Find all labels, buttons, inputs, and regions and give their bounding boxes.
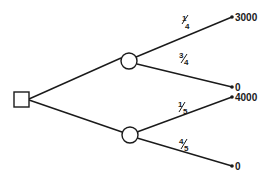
edge-upper-chance-to-0 [137, 64, 232, 87]
probability-denominator: 4 [185, 22, 190, 31]
terminal-dot-3000 [230, 15, 234, 19]
chance-node-upper-circle [121, 53, 137, 69]
probability-denominator: 5 [184, 144, 189, 153]
edge-decision-to-upper-chance [29, 58, 121, 99]
chance-node-lower-circle [122, 127, 138, 143]
payoff-4000: 4000 [235, 92, 258, 103]
probability-label-1-5: 1 5 [178, 100, 188, 116]
terminal-dot-4000 [230, 95, 234, 99]
probability-denominator: 5 [183, 107, 188, 116]
payoff-lower-0: 0 [235, 161, 241, 172]
payoff-3000: 3000 [235, 12, 258, 23]
edge-decision-to-lower-chance [29, 100, 122, 132]
probability-label-3-4: 3 4 [179, 51, 189, 67]
decision-node-square [14, 92, 29, 107]
probability-denominator: 4 [184, 58, 189, 67]
decision-tree-diagram: 3000 0 4000 0 1 4 3 4 1 5 4 5 [0, 0, 274, 178]
terminal-dot-upper-0 [230, 85, 234, 89]
edge-upper-chance-to-3000 [136, 17, 232, 57]
probability-label-1-4: 1 4 [182, 14, 190, 31]
terminal-dot-lower-0 [230, 164, 234, 168]
